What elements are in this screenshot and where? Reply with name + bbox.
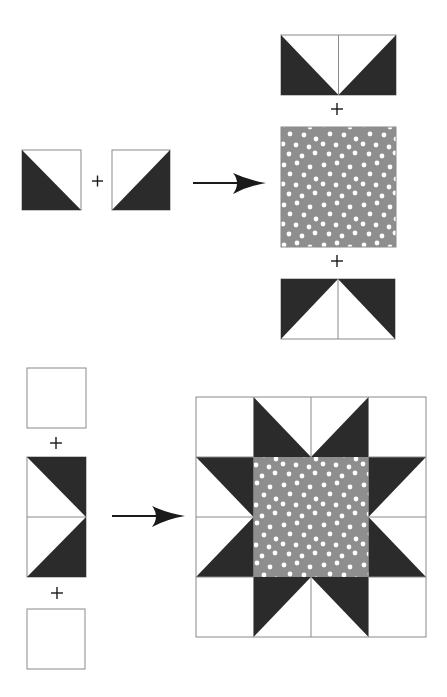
white-square-top xyxy=(27,368,86,428)
arrow-icon xyxy=(193,173,266,194)
flying-geese-top xyxy=(281,35,396,95)
step2-left-column xyxy=(27,368,86,669)
hst-unit-right xyxy=(112,150,170,210)
star-center-print xyxy=(254,457,369,577)
hst-unit-left xyxy=(22,150,81,210)
plus-icon xyxy=(331,255,343,267)
flying-geese-bottom xyxy=(281,279,395,339)
plus-icon xyxy=(92,176,103,187)
flying-geese-vertical xyxy=(27,457,86,577)
arrow-icon xyxy=(112,506,185,527)
quilt-assembly-diagram xyxy=(0,0,447,697)
plus-icon xyxy=(331,103,343,115)
polka-dot-center-square xyxy=(281,127,396,247)
white-square-bottom xyxy=(27,609,85,669)
plus-icon xyxy=(50,437,62,449)
plus-icon xyxy=(51,587,63,599)
step1-left-units xyxy=(22,150,170,210)
step1-result-column xyxy=(281,35,396,339)
sawtooth-star-block xyxy=(196,397,426,637)
